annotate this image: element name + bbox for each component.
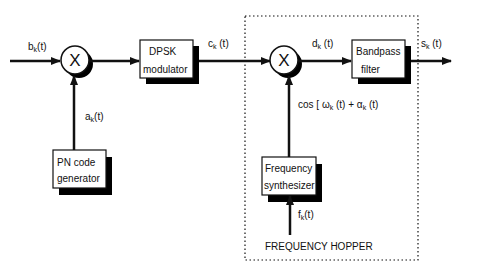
mixer-1: X bbox=[61, 46, 93, 78]
dpsk-modulator-block: DPSK modulator bbox=[140, 40, 199, 84]
multiply-icon: X bbox=[69, 51, 80, 70]
mixer-2: X bbox=[270, 46, 302, 78]
svg-text:synthesizer: synthesizer bbox=[264, 180, 315, 191]
label-dk: dk (t) bbox=[312, 38, 333, 50]
diagram-canvas: bk(t) X ak(t) PN code generator DPSK mod… bbox=[0, 0, 482, 276]
svg-text:Frequency: Frequency bbox=[265, 163, 312, 174]
label-ck: ck (t) bbox=[208, 38, 229, 50]
svg-text:modulator: modulator bbox=[143, 64, 188, 75]
svg-text:PN code: PN code bbox=[57, 157, 96, 168]
frequency-synthesizer-block: Frequency synthesizer bbox=[262, 157, 322, 202]
label-bk: bk(t) bbox=[28, 41, 47, 53]
label-sk: sk (t) bbox=[421, 38, 442, 50]
svg-text:DPSK: DPSK bbox=[149, 46, 177, 57]
svg-text:Bandpass: Bandpass bbox=[356, 46, 400, 57]
label-ak: ak(t) bbox=[85, 111, 104, 123]
frequency-hopper-label: FREQUENCY HOPPER bbox=[265, 241, 373, 252]
label-carrier: cos [ ωk (t) + αk (t) bbox=[298, 99, 378, 111]
svg-text:generator: generator bbox=[57, 173, 100, 184]
svg-text:filter: filter bbox=[361, 64, 381, 75]
label-fk: fk(t) bbox=[298, 209, 314, 221]
bandpass-filter-block: Bandpass filter bbox=[352, 40, 411, 84]
multiply-icon: X bbox=[278, 51, 289, 70]
pn-code-generator-block: PN code generator bbox=[53, 150, 112, 195]
